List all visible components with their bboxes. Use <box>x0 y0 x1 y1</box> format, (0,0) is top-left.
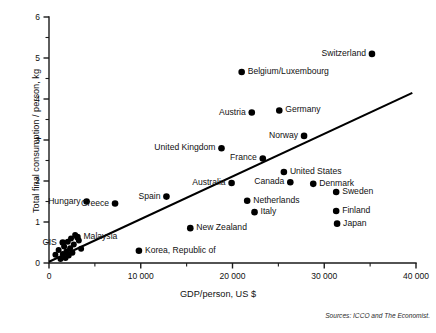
point-label: United Kingdom <box>154 143 215 152</box>
x-tick-label: 10 000 <box>128 271 154 281</box>
data-point <box>163 193 170 200</box>
data-point <box>281 169 288 176</box>
y-axis-title: Total final consumption / person, kg <box>31 1 41 281</box>
x-tick-label: 20 000 <box>220 271 246 281</box>
point-label: Austria <box>219 108 246 117</box>
point-label: Japan <box>343 219 366 228</box>
x-tick-label: 40 000 <box>403 271 429 281</box>
data-point <box>276 107 283 114</box>
data-point <box>52 252 58 258</box>
data-point <box>238 69 245 76</box>
source-note: Sources: ICCO and The Economist. <box>325 312 430 319</box>
data-point <box>218 145 225 152</box>
data-point <box>228 180 235 187</box>
data-point <box>369 51 376 58</box>
point-label: Malaysia <box>83 232 117 241</box>
point-label: Italy <box>261 207 277 216</box>
point-label: France <box>230 153 257 162</box>
data-point <box>78 246 84 252</box>
data-point <box>71 242 77 248</box>
data-point <box>136 247 143 254</box>
x-tick-label: 30 000 <box>311 271 337 281</box>
data-point <box>251 209 258 216</box>
data-point <box>259 155 266 162</box>
point-label: Switzerland <box>322 49 366 58</box>
point-label: Finland <box>342 206 370 215</box>
point-label: Canada <box>254 177 284 186</box>
scatter-plot: 0123456010 00020 00030 00040 000 <box>0 0 436 333</box>
point-label: Sweden <box>342 187 373 196</box>
chart-figure: 0123456010 00020 00030 00040 000 Switzer… <box>0 0 436 333</box>
point-label: Korea, Republic of <box>145 246 216 255</box>
data-point <box>287 179 294 186</box>
data-point <box>310 181 317 188</box>
point-label: New Zealand <box>196 223 247 232</box>
data-point <box>187 225 194 232</box>
data-point <box>69 250 75 256</box>
data-point <box>74 234 81 241</box>
point-label: Germany <box>285 105 320 114</box>
point-label: Australia <box>192 178 225 187</box>
point-label: Greece <box>81 199 109 208</box>
point-label: CIS <box>42 238 56 247</box>
x-tick-label: 0 <box>47 271 52 281</box>
data-point <box>248 109 255 116</box>
data-point <box>244 197 251 204</box>
point-label: Netherlands <box>253 196 299 205</box>
data-point <box>333 208 340 215</box>
data-point <box>333 189 340 196</box>
point-label: United States <box>290 167 342 176</box>
data-point <box>112 200 119 207</box>
x-axis-title: GDP/person, US $ <box>0 289 436 299</box>
data-point <box>334 220 341 227</box>
point-label: Hungary <box>48 197 80 206</box>
point-label: Belgium/Luxembourg <box>248 67 329 76</box>
data-point <box>59 239 66 246</box>
point-label: Spain <box>138 192 160 201</box>
point-label: Norway <box>269 131 298 140</box>
data-point <box>301 133 308 140</box>
